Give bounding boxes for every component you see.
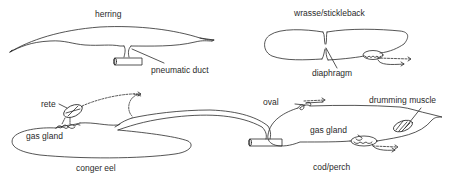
herring-title: herring xyxy=(95,10,121,19)
oval-label: oval xyxy=(263,98,279,107)
swim-bladder-diagram: herring wrasse/stickleback conger eel co… xyxy=(0,0,450,174)
herring-bladder xyxy=(10,27,214,65)
cod-perch-title: cod/perch xyxy=(313,163,350,172)
pneumatic-duct-label: pneumatic duct xyxy=(151,66,209,75)
rete-label: rete xyxy=(41,100,56,109)
diagram-drawing xyxy=(0,0,450,174)
cod-gas-gland-label: gas gland xyxy=(310,126,347,135)
wrasse-title: wrasse/stickleback xyxy=(294,9,365,18)
cod-bladder xyxy=(268,98,442,152)
wrasse-bladder xyxy=(265,29,411,68)
diaphragm-label: diaphragm xyxy=(312,69,352,78)
conger-gas-gland-label: gas gland xyxy=(26,132,63,141)
conger-eel-title: conger eel xyxy=(76,164,116,173)
drumming-muscle-label: drumming muscle xyxy=(369,96,436,105)
